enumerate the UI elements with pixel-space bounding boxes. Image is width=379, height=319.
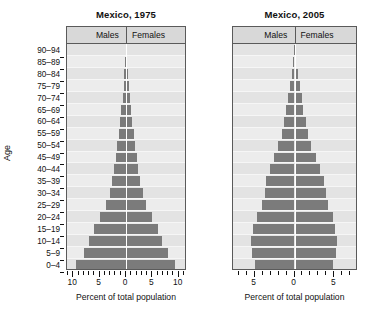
age-label: 30–34 bbox=[37, 190, 60, 198]
age-label: 55–59 bbox=[37, 130, 60, 138]
x-tick-minor bbox=[114, 271, 115, 275]
legend-males-left: Males bbox=[96, 30, 125, 40]
bar-males bbox=[262, 200, 294, 210]
x-tick-minor bbox=[167, 271, 168, 275]
x-tick-minor bbox=[270, 271, 271, 275]
x-tick-label: 5 bbox=[96, 277, 101, 287]
bar-females bbox=[295, 224, 335, 234]
x-tick-minor bbox=[301, 271, 302, 275]
age-tick bbox=[60, 93, 64, 94]
age-tick bbox=[60, 260, 64, 261]
bar-males bbox=[265, 188, 295, 198]
bar-males bbox=[110, 188, 126, 198]
age-label: 65–69 bbox=[37, 107, 60, 115]
bar-females bbox=[126, 141, 135, 151]
age-tick bbox=[60, 117, 64, 118]
x-tick-minor bbox=[83, 271, 84, 275]
chart-panel-1975: Males Females bbox=[66, 26, 186, 270]
x-tick-minor bbox=[141, 271, 142, 275]
bar-females bbox=[126, 164, 138, 174]
bar-females bbox=[295, 248, 336, 258]
x-tick-minor bbox=[109, 271, 110, 275]
age-tick bbox=[60, 141, 64, 142]
x-tick-minor bbox=[262, 271, 263, 275]
age-label: 80–84 bbox=[37, 71, 60, 79]
age-tick bbox=[60, 153, 64, 154]
x-tick-label: 10 bbox=[68, 277, 77, 287]
plot-area-1975 bbox=[67, 44, 185, 269]
age-label: 5–9 bbox=[46, 250, 60, 258]
age-tick bbox=[60, 248, 64, 249]
x-axis-2005: 505 bbox=[232, 271, 357, 277]
bar-females bbox=[295, 117, 306, 127]
x-axis-1975: 1050510 bbox=[66, 271, 186, 277]
bar-males bbox=[251, 236, 295, 246]
bar-males bbox=[288, 93, 294, 103]
bar-females bbox=[126, 236, 162, 246]
bar-males bbox=[284, 117, 295, 127]
age-label: 20–24 bbox=[37, 214, 60, 222]
bar-females bbox=[295, 236, 337, 246]
age-tick bbox=[60, 164, 64, 165]
panel-header-left: Males Females bbox=[67, 27, 185, 44]
age-label: 40–44 bbox=[37, 166, 60, 174]
x-tick-minor bbox=[146, 271, 147, 275]
x-tick-label: 0 bbox=[123, 277, 128, 287]
age-tick bbox=[60, 176, 64, 177]
bar-females bbox=[295, 212, 333, 222]
bar-males bbox=[94, 224, 126, 234]
bar-females bbox=[295, 176, 324, 186]
x-tick-minor bbox=[104, 271, 105, 275]
x-tick-minor bbox=[78, 271, 79, 275]
legend-females-left: Females bbox=[126, 30, 165, 40]
bar-females bbox=[295, 141, 312, 151]
x-axis-title-right: Percent of total population bbox=[216, 292, 373, 302]
bar-females bbox=[126, 224, 158, 234]
bar-males bbox=[112, 176, 126, 186]
x-tick-minor bbox=[341, 271, 342, 275]
bar-males bbox=[76, 260, 126, 269]
age-tick bbox=[60, 105, 64, 106]
age-label: 90–94 bbox=[37, 47, 60, 55]
age-label: 35–39 bbox=[37, 178, 60, 186]
bar-males bbox=[266, 176, 294, 186]
bar-females bbox=[295, 260, 333, 269]
age-tick bbox=[60, 224, 64, 225]
x-tick-minor bbox=[238, 271, 239, 275]
x-tick-minor bbox=[162, 271, 163, 275]
x-tick-minor bbox=[286, 271, 287, 275]
age-tick bbox=[60, 129, 64, 130]
age-tick bbox=[60, 200, 64, 201]
x-tick-label: 10 bbox=[173, 277, 182, 287]
age-label: 85–89 bbox=[37, 59, 60, 67]
age-label: 0–4 bbox=[46, 262, 60, 270]
bar-males bbox=[255, 260, 295, 269]
age-label: 15–19 bbox=[37, 226, 60, 234]
bar-males bbox=[253, 224, 294, 234]
bar-males bbox=[106, 200, 126, 210]
x-tick-minor bbox=[157, 271, 158, 275]
bar-males bbox=[286, 105, 294, 115]
bar-males bbox=[282, 129, 295, 139]
age-tick bbox=[60, 81, 64, 82]
x-axis-title-left: Percent of total population bbox=[50, 292, 202, 302]
y-axis-title: Age bbox=[2, 133, 12, 173]
panel-title-right: Mexico, 2005 bbox=[232, 9, 357, 20]
age-label: 10–14 bbox=[37, 238, 60, 246]
x-tick-minor bbox=[93, 271, 94, 275]
x-tick-minor bbox=[278, 271, 279, 275]
bar-males bbox=[257, 212, 294, 222]
x-tick-label: 5 bbox=[331, 277, 336, 287]
x-tick-minor bbox=[317, 271, 318, 275]
x-tick-minor bbox=[120, 271, 121, 275]
bar-females bbox=[295, 188, 327, 198]
bar-females bbox=[126, 129, 134, 139]
panel-header-right: Males Females bbox=[233, 27, 356, 44]
bar-males bbox=[274, 153, 294, 163]
center-axis-line bbox=[295, 44, 296, 269]
x-tick-minor bbox=[309, 271, 310, 275]
age-tick bbox=[60, 188, 64, 189]
x-tick-minor bbox=[183, 271, 184, 275]
x-tick-label: 0 bbox=[291, 277, 296, 287]
age-tick bbox=[60, 212, 64, 213]
